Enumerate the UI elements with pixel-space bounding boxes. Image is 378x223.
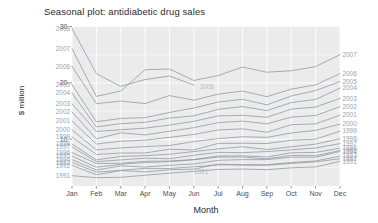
series-label-left-2000: 2000 (56, 126, 71, 133)
series-label-left-1998: 1998 (56, 140, 71, 147)
series-label-left-2001: 2001 (56, 117, 71, 124)
series-label-left-2003: 2003 (56, 100, 71, 107)
series-label-right-1998: 1998 (343, 135, 358, 142)
x-tick-label: Mar (115, 190, 128, 197)
x-tick-label: Jan (66, 190, 77, 197)
series-label-right-2005: 2005 (343, 78, 358, 85)
series-label-left-2004: 2004 (56, 89, 71, 96)
series-label-right-2003: 2003 (343, 95, 358, 102)
chart-container: Seasonal plot: antidiabetic drug sales $… (0, 0, 378, 223)
series-label-left-2006: 2006 (56, 63, 71, 70)
x-tick-label: Nov (309, 190, 322, 197)
x-tick-label: Apr (140, 190, 152, 198)
series-label-left-2008: 2008 (56, 25, 71, 32)
series-label-left-2002: 2002 (56, 108, 71, 115)
x-axis-tick-labels: JanFebMarAprMayJunJulAugSepOctNovDec (66, 190, 346, 198)
x-tick-label: Aug (236, 190, 249, 198)
series-label-right-1999: 1999 (343, 127, 358, 134)
series-label-right-2000: 2000 (343, 120, 358, 127)
series-label-right-2007: 2007 (343, 51, 358, 58)
series-label-right-2006: 2006 (343, 70, 358, 77)
seasonal-plot-svg: 102030 JanFebMarAprMayJunJulAugSepOctNov… (0, 0, 378, 223)
series-label-right-2002: 2002 (343, 103, 358, 110)
series-label-left-1999: 1999 (56, 133, 71, 140)
series-label-left-2005: 2005 (56, 81, 71, 88)
x-tick-label: Jul (214, 190, 223, 197)
series-label-inline-2008: 2008 (200, 83, 215, 90)
x-tick-label: Feb (90, 190, 102, 197)
x-tick-label: Sep (261, 190, 274, 198)
series-label-right-2001: 2001 (343, 111, 358, 118)
series-label-left-2007: 2007 (56, 45, 71, 52)
x-tick-label: Oct (286, 190, 297, 197)
x-tick-label: Dec (334, 190, 347, 197)
x-tick-label: Jun (188, 190, 199, 197)
series-label-left-1991: 1991 (56, 172, 71, 179)
x-tick-label: May (163, 190, 177, 198)
series-label-inline-1991: 1991 (194, 168, 209, 175)
series-label-right-2004: 2004 (343, 84, 358, 91)
